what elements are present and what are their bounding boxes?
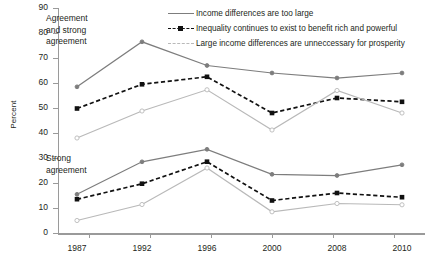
y-tick-label: 60: [8, 77, 48, 87]
data-point: [400, 71, 404, 75]
legend-item[interactable]: Large income differences are unneccessar…: [166, 36, 428, 51]
legend-item[interactable]: Inequality continues to exist to benefit…: [166, 21, 428, 36]
annotation-strong-agreement: Strong agreement: [46, 153, 116, 176]
series-line: [77, 149, 402, 194]
data-point: [400, 195, 405, 200]
data-point: [270, 172, 274, 176]
legend-label: Income differences are too large: [196, 9, 313, 18]
data-point: [400, 100, 405, 105]
data-point: [205, 64, 209, 68]
data-point: [335, 76, 339, 80]
data-point: [205, 159, 210, 164]
data-point: [270, 210, 274, 214]
data-point: [335, 201, 339, 205]
x-tick-label: 2008: [312, 243, 362, 253]
annotation-agreement-and-strong-agreement: Agreement and strong agreement: [46, 13, 116, 48]
data-point: [75, 218, 79, 222]
data-point: [205, 147, 209, 151]
x-tick-label: 1996: [182, 243, 232, 253]
y-tick-label: 50: [8, 102, 48, 112]
data-point: [335, 96, 340, 101]
data-point: [140, 82, 145, 87]
data-point: [140, 40, 144, 44]
data-point: [140, 109, 144, 113]
x-axis-line: [58, 233, 425, 235]
data-point: [75, 136, 79, 140]
data-point: [270, 71, 274, 75]
x-tick: [272, 233, 273, 238]
data-point: [400, 203, 404, 207]
data-point: [205, 88, 209, 92]
data-point: [270, 111, 275, 116]
data-point: [335, 88, 339, 92]
data-point: [205, 75, 210, 80]
x-tick: [89, 233, 90, 238]
data-point: [270, 128, 274, 132]
data-point: [140, 160, 144, 164]
x-tick: [333, 233, 334, 238]
legend-swatch-icon: [166, 23, 196, 34]
x-tick-label: 1992: [117, 243, 167, 253]
series-line: [77, 90, 402, 138]
y-tick-label: 80: [8, 27, 48, 37]
data-point: [140, 181, 145, 186]
legend-swatch-icon: [166, 8, 196, 19]
y-tick-label: 40: [8, 127, 48, 137]
series-line: [77, 168, 402, 221]
data-point: [400, 163, 404, 167]
y-tick-label: 30: [8, 152, 48, 162]
data-point: [205, 166, 209, 170]
data-point: [335, 174, 339, 178]
series-line: [77, 162, 402, 201]
y-tick-label: 90: [8, 2, 48, 12]
series-line: [77, 77, 402, 113]
legend-label: Inequality continues to exist to benefit…: [196, 24, 397, 33]
legend-swatch-icon: [166, 38, 196, 49]
legend-label: Large income differences are unneccessar…: [196, 39, 405, 48]
data-point: [75, 192, 79, 196]
y-tick-label: 0: [8, 227, 48, 237]
x-tick-label: 2000: [247, 243, 297, 253]
data-point: [335, 191, 340, 196]
x-tick: [150, 233, 151, 238]
y-tick-label: 20: [8, 177, 48, 187]
data-point: [270, 198, 275, 203]
data-point: [400, 111, 404, 115]
x-tick: [394, 233, 395, 238]
y-tick-label: 10: [8, 202, 48, 212]
x-tick-label: 1987: [52, 243, 102, 253]
data-point: [140, 202, 144, 206]
data-point: [75, 197, 80, 202]
chart-legend: Income differences are too largeInequali…: [166, 6, 428, 51]
y-tick-label: 70: [8, 52, 48, 62]
data-point: [75, 85, 79, 89]
x-tick: [211, 233, 212, 238]
x-tick-label: 2010: [377, 243, 427, 253]
legend-item[interactable]: Income differences are too large: [166, 6, 428, 21]
line-chart: Percent 0102030405060708090 198719921996…: [0, 0, 429, 263]
data-point: [75, 106, 80, 111]
